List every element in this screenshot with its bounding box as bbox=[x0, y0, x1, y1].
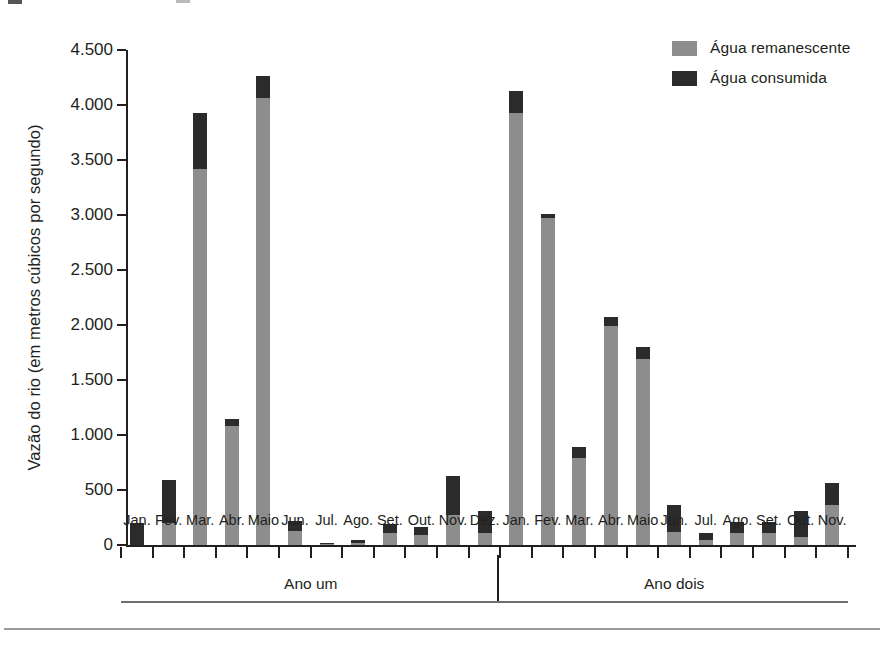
x-axis-month-label: Set. bbox=[756, 512, 782, 528]
x-axis-month-label: Ago. bbox=[722, 512, 752, 528]
y-axis-title: Vazão do rio (em metros cúbicos por segu… bbox=[22, 50, 46, 545]
bar-segment-agua-remanescente bbox=[541, 218, 555, 545]
bar-segment-agua-remanescente bbox=[288, 531, 302, 545]
x-axis-month-label: Out. bbox=[408, 512, 435, 528]
y-axis-tick bbox=[117, 324, 126, 326]
x-axis-tick bbox=[183, 547, 185, 558]
x-axis-tick bbox=[341, 547, 343, 558]
bar-segment-agua-remanescente bbox=[193, 169, 207, 545]
y-axis-tick-label: 4.000 bbox=[70, 95, 113, 115]
bar-stack bbox=[509, 91, 523, 545]
chart-figure: Água remanescente Água consumida Vazão d… bbox=[0, 0, 884, 647]
bar-stack bbox=[320, 543, 334, 545]
bar-segment-agua-consumida bbox=[256, 76, 270, 98]
bar-series-container bbox=[128, 50, 856, 545]
x-axis-tick bbox=[815, 547, 817, 558]
y-axis-tick-label: 1.500 bbox=[70, 370, 113, 390]
bar-segment-agua-remanescente bbox=[256, 98, 270, 545]
x-axis-tick bbox=[436, 547, 438, 558]
x-axis-month-label: Set. bbox=[377, 512, 403, 528]
year-group-separator bbox=[497, 555, 499, 603]
y-axis-tick-label: 0 bbox=[104, 535, 113, 555]
bar-segment-agua-remanescente bbox=[762, 533, 776, 545]
x-axis-tick bbox=[215, 547, 217, 558]
y-axis-tick-label: 3.000 bbox=[70, 205, 113, 225]
x-axis-month-label: Dez. bbox=[470, 512, 500, 528]
bar-segment-agua-consumida bbox=[225, 419, 239, 427]
year-group-label: Ano um bbox=[284, 575, 337, 593]
x-axis-tick bbox=[657, 547, 659, 558]
bar-stack bbox=[446, 476, 460, 545]
x-axis-tick bbox=[499, 547, 501, 558]
x-axis-tick bbox=[594, 547, 596, 558]
year-group-label: Ano dois bbox=[644, 575, 704, 593]
x-axis-month-label: Mar. bbox=[565, 512, 593, 528]
y-axis-tick bbox=[117, 544, 126, 546]
bar-segment-agua-remanescente bbox=[699, 540, 713, 546]
x-axis-month-label: Jan. bbox=[123, 512, 150, 528]
bar-stack bbox=[541, 214, 555, 545]
x-axis-tick bbox=[562, 547, 564, 558]
x-axis-tick bbox=[120, 547, 122, 558]
x-axis-month-label: Nov. bbox=[818, 512, 847, 528]
bar-segment-agua-consumida bbox=[604, 317, 618, 326]
scan-artifact-left bbox=[8, 0, 22, 4]
x-axis-tick bbox=[752, 547, 754, 558]
x-axis-month-label: Jun. bbox=[660, 512, 687, 528]
bar-stack bbox=[351, 540, 365, 545]
x-axis-month-label: Fev. bbox=[155, 512, 182, 528]
y-axis-tick bbox=[117, 489, 126, 491]
x-axis-tick bbox=[720, 547, 722, 558]
bar-segment-agua-remanescente bbox=[572, 458, 586, 545]
y-axis-tick bbox=[117, 434, 126, 436]
x-axis-month-label: Maio bbox=[627, 512, 658, 528]
bar-segment-agua-remanescente bbox=[351, 543, 365, 545]
bar-segment-agua-consumida bbox=[636, 347, 650, 359]
y-axis-tick bbox=[117, 159, 126, 161]
bar-segment-agua-remanescente bbox=[794, 537, 808, 545]
x-axis-tick bbox=[404, 547, 406, 558]
y-axis-tick-label: 2.000 bbox=[70, 315, 113, 335]
y-axis-tick bbox=[117, 214, 126, 216]
x-axis-tick bbox=[689, 547, 691, 558]
x-axis-month-label: Nov. bbox=[439, 512, 468, 528]
bar-segment-agua-consumida bbox=[509, 91, 523, 113]
scan-artifact-center bbox=[176, 0, 190, 3]
x-axis-tick bbox=[847, 547, 849, 558]
bar-stack bbox=[572, 447, 586, 545]
x-axis-tick bbox=[784, 547, 786, 558]
year-group-rule bbox=[500, 601, 848, 603]
x-axis-month-label: Fev. bbox=[534, 512, 561, 528]
x-axis-tick bbox=[246, 547, 248, 558]
bar-segment-agua-consumida bbox=[699, 533, 713, 540]
bar-segment-agua-remanescente bbox=[478, 533, 492, 545]
y-axis-tick-label: 500 bbox=[85, 480, 113, 500]
y-axis-tick bbox=[117, 269, 126, 271]
y-axis-tick-label: 1.000 bbox=[70, 425, 113, 445]
y-axis-tick-label: 4.500 bbox=[70, 40, 113, 60]
x-axis-tick bbox=[373, 547, 375, 558]
bar-segment-agua-consumida bbox=[572, 447, 586, 458]
bar-segment-agua-remanescente bbox=[383, 533, 397, 545]
bar-segment-agua-consumida bbox=[414, 527, 428, 535]
page-bottom-rule bbox=[4, 628, 880, 630]
x-axis-month-label: Mar. bbox=[186, 512, 214, 528]
x-axis-month-label: Ago. bbox=[343, 512, 373, 528]
y-axis-tick bbox=[117, 104, 126, 106]
bar-segment-agua-consumida bbox=[446, 476, 460, 516]
bar-segment-agua-remanescente bbox=[667, 532, 681, 545]
y-axis-title-text: Vazão do rio (em metros cúbicos por segu… bbox=[25, 124, 44, 470]
plot-area: 05001.0001.5002.0002.5003.0003.5004.0004… bbox=[126, 50, 856, 545]
bar-segment-agua-consumida bbox=[193, 113, 207, 169]
bar-segment-agua-consumida bbox=[825, 483, 839, 505]
x-axis-month-label: Abr. bbox=[219, 512, 245, 528]
y-axis-tick-label: 3.500 bbox=[70, 150, 113, 170]
bar-stack bbox=[699, 533, 713, 545]
bar-stack bbox=[604, 317, 618, 545]
x-axis-tick bbox=[531, 547, 533, 558]
x-axis-tick bbox=[310, 547, 312, 558]
bar-stack bbox=[414, 527, 428, 545]
x-axis-tick bbox=[278, 547, 280, 558]
bar-stack bbox=[193, 113, 207, 545]
x-axis-month-label: Jan. bbox=[502, 512, 529, 528]
